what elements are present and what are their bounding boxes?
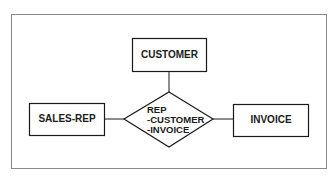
relationship-line-3: -INVOICE bbox=[147, 125, 204, 135]
entity-sales-rep-label: SALES-REP bbox=[29, 113, 105, 124]
entity-invoice-label: INVOICE bbox=[233, 114, 309, 125]
relationship-label: REP -CUSTOMER -INVOICE bbox=[147, 105, 204, 135]
diagram-canvas bbox=[0, 0, 335, 177]
entity-customer-label: CUSTOMER bbox=[132, 49, 207, 60]
